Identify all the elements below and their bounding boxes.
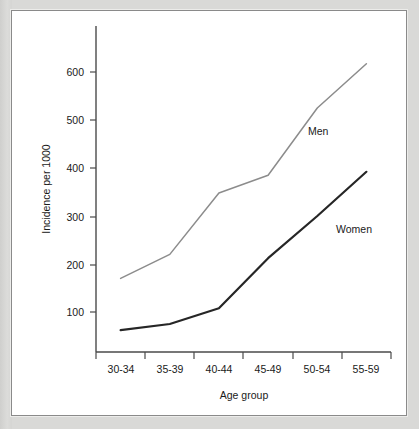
figure-root: 600 500 400 300 200 100 (0, 0, 419, 429)
y-tick-label-400: 400 (66, 162, 84, 174)
x-axis-title: Age group (220, 389, 269, 401)
x-tick-label-55-59: 55-59 (353, 363, 380, 375)
y-tick-label-600: 600 (66, 66, 84, 78)
y-axis-tick-labels: 600 500 400 300 200 100 (66, 66, 84, 318)
x-tick-label-45-49: 45-49 (255, 363, 282, 375)
y-tick-label-200: 200 (66, 259, 84, 271)
figure-frame: 600 500 400 300 200 100 (11, 10, 407, 416)
series-annotation-women: Women (336, 223, 372, 235)
series-annotation-men: Men (308, 125, 329, 137)
y-tick-label-100: 100 (66, 306, 84, 318)
y-axis-ticks (90, 72, 96, 312)
series-line-women (121, 172, 367, 330)
x-tick-label-50-54: 50-54 (304, 363, 331, 375)
x-axis-ticks (96, 352, 391, 359)
y-tick-label-300: 300 (66, 211, 84, 223)
x-tick-label-35-39: 35-39 (157, 363, 184, 375)
x-axis-tick-labels: 30-34 35-39 40-44 45-49 50-54 55-59 (108, 363, 380, 375)
x-tick-label-40-44: 40-44 (206, 363, 233, 375)
line-chart: 600 500 400 300 200 100 (12, 11, 406, 415)
y-axis-title: Incidence per 1000 (40, 144, 52, 233)
series-line-men (121, 64, 367, 279)
chart-svg: 600 500 400 300 200 100 (12, 11, 406, 415)
x-tick-label-30-34: 30-34 (108, 363, 135, 375)
y-tick-label-500: 500 (66, 114, 84, 126)
